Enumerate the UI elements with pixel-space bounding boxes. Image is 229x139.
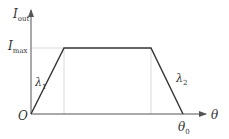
- slope1-label: λ1: [34, 76, 46, 91]
- y-axis-label: Iout: [12, 7, 29, 23]
- trapezoid-curve: [31, 48, 183, 114]
- origin-label: O: [18, 109, 28, 123]
- guide-lines: [31, 48, 151, 114]
- imax-label: Imax: [7, 39, 28, 55]
- theta0-label: θ0: [178, 120, 190, 136]
- slope2-label: λ2: [175, 72, 187, 87]
- trapezoid-diagram: Iout Imax O λ1 λ2 θ0 θ: [0, 0, 229, 139]
- x-axis-label: θ: [211, 108, 219, 122]
